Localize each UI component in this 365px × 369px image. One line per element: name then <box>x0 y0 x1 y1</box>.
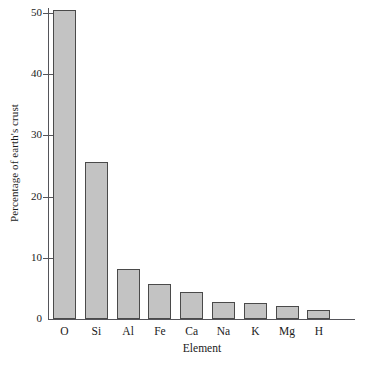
x-axis-tick-label: Na <box>206 324 241 338</box>
bar <box>117 269 140 319</box>
x-axis-tick-label: K <box>238 324 273 338</box>
bar <box>276 306 299 319</box>
y-axis-tick-mark <box>43 135 53 136</box>
x-axis-title-text: Element <box>183 342 221 354</box>
y-axis-tick-mark <box>43 13 53 14</box>
x-axis-tick-label: O <box>47 324 82 338</box>
bar <box>85 162 108 319</box>
y-axis-tick-mark <box>43 197 53 198</box>
x-axis-tick-label: Al <box>111 324 146 338</box>
bar <box>212 302 235 319</box>
bar-chart-figure: Percentage of earth's crust 01020304050 … <box>0 0 365 369</box>
x-axis-tick-label: Mg <box>270 324 305 338</box>
y-axis-tick: 0 <box>48 319 58 320</box>
x-axis-tick-label: Ca <box>174 324 209 338</box>
y-axis-tick-label: 50 <box>31 6 42 19</box>
x-axis-tick-label: Si <box>79 324 114 338</box>
x-axis-tick-label: H <box>301 324 336 338</box>
x-axis-line <box>48 319 355 320</box>
y-axis-tick-label: 30 <box>31 128 42 141</box>
bar <box>53 10 76 319</box>
plot-area: 01020304050 OSiAlFeCaNaKMgH <box>48 8 358 320</box>
x-axis-title: Element <box>52 342 352 354</box>
y-axis-tick-label: 40 <box>31 67 42 80</box>
y-axis-tick-mark <box>43 74 53 75</box>
y-axis-tick-mark <box>43 258 53 259</box>
y-axis-tick-label: 20 <box>31 190 42 203</box>
bar <box>180 292 203 319</box>
y-axis-tick-label: 0 <box>37 312 43 325</box>
bar <box>244 303 267 319</box>
y-axis-title-text: Percentage of earth's crust <box>8 104 20 222</box>
y-axis-line <box>48 8 49 320</box>
y-axis-title: Percentage of earth's crust <box>0 0 28 325</box>
bar <box>307 310 330 319</box>
x-axis-tick-label: Fe <box>142 324 177 338</box>
y-axis-tick-label: 10 <box>31 251 42 264</box>
bar <box>148 284 171 319</box>
